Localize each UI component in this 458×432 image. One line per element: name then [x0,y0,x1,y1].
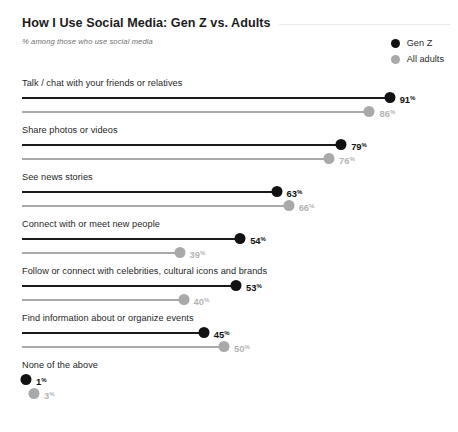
data-point-all-adults[interactable] [324,153,335,164]
data-label-gen-z: 91% [400,92,416,105]
percent-sign: % [41,377,46,383]
data-label-all-adults: 40% [194,294,210,307]
chart-row: Follow or connect with celebrities, cult… [0,266,458,313]
chart-row-label: Share photos or videos [22,125,118,135]
legend-label-all-adults: All adults [407,54,444,64]
bar-line [22,346,224,348]
chart-row: Find information about or organize event… [0,313,458,360]
value-number: 66 [299,202,309,213]
data-label-gen-z: 53% [246,280,262,293]
percent-sign: % [200,250,205,256]
data-point-all-adults[interactable] [283,200,294,211]
data-label-all-adults: 39% [190,247,206,260]
data-label-all-adults: 66% [299,200,315,213]
data-point-gen-z[interactable] [235,233,246,244]
data-point-gen-z[interactable] [21,374,32,385]
value-number: 76 [339,155,349,166]
data-point-gen-z[interactable] [271,186,282,197]
bar-line [22,285,236,287]
chart-row-label: None of the above [22,360,98,370]
percent-sign: % [309,203,314,209]
percent-sign: % [362,142,367,148]
bar-track-all-adults: 50% [22,341,284,353]
bar-line [22,191,277,193]
bar-line [22,332,204,334]
bar-track-all-adults: 86% [22,106,429,118]
percent-sign: % [261,236,266,242]
title-row: How I Use Social Media: Gen Z vs. Adults [22,16,450,30]
data-label-gen-z: 63% [287,186,303,199]
chart-rows: Talk / chat with your friends or relativ… [0,78,458,407]
data-label-all-adults: 86% [379,106,395,119]
chart-row-label: Connect with or meet new people [22,219,160,229]
percent-sign: % [410,95,415,101]
bar-track-all-adults: 40% [22,294,244,306]
data-point-all-adults[interactable] [29,388,40,399]
bar-track-gen-z: 1% [22,374,86,386]
bar-track-all-adults: 76% [22,153,389,165]
bar-line [22,252,180,254]
bar-line [22,158,329,160]
bar-track-gen-z: 45% [22,327,264,339]
bar-line [22,144,341,146]
bar-line [22,238,240,240]
data-label-gen-z: 79% [351,139,367,152]
data-point-all-adults[interactable] [364,106,375,117]
chart-row: Share photos or videos79%76% [0,125,458,172]
data-point-gen-z[interactable] [231,280,242,291]
data-point-gen-z[interactable] [198,327,209,338]
bar-track-all-adults: 39% [22,247,240,259]
bar-line [22,205,289,207]
percent-sign: % [390,109,395,115]
data-label-gen-z: 1% [36,374,47,387]
data-point-gen-z[interactable] [336,139,347,150]
bar-track-all-adults: 3% [22,388,94,400]
legend-item-all-adults[interactable]: All adults [391,54,444,64]
data-label-all-adults: 76% [339,153,355,166]
value-number: 50 [234,343,244,354]
chart-row: Connect with or meet new people54%39% [0,219,458,266]
bar-track-gen-z: 79% [22,139,401,151]
value-number: 63 [287,188,297,199]
chart-page: How I Use Social Media: Gen Z vs. Adults… [0,0,458,432]
value-number: 45 [214,329,224,340]
data-label-all-adults: 3% [44,388,55,401]
percent-sign: % [224,330,229,336]
bar-line [22,111,369,113]
percent-sign: % [244,344,249,350]
chart-row-label: Follow or connect with celebrities, cult… [22,266,267,276]
chart-subtitle: % among those who use social media [22,37,450,46]
page-title: How I Use Social Media: Gen Z vs. Adults [22,16,271,30]
legend-label-gen-z: Gen Z [407,38,433,48]
value-number: 86 [379,108,389,119]
data-point-gen-z[interactable] [384,92,395,103]
chart-header: How I Use Social Media: Gen Z vs. Adults… [22,16,450,46]
legend-item-gen-z[interactable]: Gen Z [391,38,444,48]
bar-line [22,299,184,301]
percent-sign: % [257,283,262,289]
data-point-all-adults[interactable] [178,294,189,305]
bar-track-gen-z: 91% [22,92,450,104]
percent-sign: % [204,297,209,303]
value-number: 39 [190,249,200,260]
value-number: 40 [194,296,204,307]
bar-line [22,97,390,99]
bar-track-gen-z: 54% [22,233,300,245]
chart-row: Talk / chat with your friends or relativ… [0,78,458,125]
value-number: 91 [400,94,410,105]
value-number: 54 [250,235,260,246]
value-number: 53 [246,282,256,293]
percent-sign: % [297,189,302,195]
bar-track-gen-z: 53% [22,280,296,292]
circle-icon [391,55,400,64]
data-point-all-adults[interactable] [174,247,185,258]
chart-row: See news stories63%66% [0,172,458,219]
percent-sign: % [49,391,54,397]
chart-row-label: Talk / chat with your friends or relativ… [22,78,182,88]
data-label-gen-z: 54% [250,233,266,246]
bar-track-gen-z: 63% [22,186,337,198]
data-label-gen-z: 45% [214,327,230,340]
circle-icon [391,39,400,48]
value-number: 79 [351,141,361,152]
data-point-all-adults[interactable] [219,341,230,352]
